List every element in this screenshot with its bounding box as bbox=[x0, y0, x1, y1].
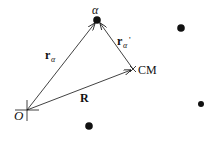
r-alpha-label: r α bbox=[45, 48, 56, 64]
svg-text:': ' bbox=[129, 35, 131, 45]
svg-text:α: α bbox=[51, 55, 56, 64]
origin-label: O bbox=[14, 108, 24, 123]
particle-dot bbox=[198, 101, 204, 107]
alpha-label: α bbox=[92, 3, 99, 17]
R-label: R bbox=[80, 91, 89, 105]
particle-dot bbox=[85, 122, 93, 130]
r-alpha-prime-label: r α ' bbox=[117, 34, 131, 50]
svg-text:α: α bbox=[123, 41, 128, 50]
cm-label: CM bbox=[138, 63, 157, 77]
vector-diagram: α O CM R r α r α ' bbox=[0, 0, 213, 144]
cm-cross-icon bbox=[130, 66, 136, 72]
particle-dot bbox=[177, 24, 185, 32]
particle-alpha-dot bbox=[93, 16, 101, 24]
